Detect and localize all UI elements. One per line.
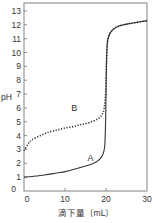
y-tick-label: 9 bbox=[16, 61, 21, 71]
curve-a bbox=[24, 21, 147, 178]
x-tick-label: 10 bbox=[60, 194, 70, 204]
y-tick-label: 10 bbox=[12, 48, 22, 58]
y-tick-label: 7 bbox=[16, 89, 21, 99]
y-tick-label: 2 bbox=[16, 158, 21, 168]
x-axis-label: 滴下量〔mL〕 bbox=[58, 208, 115, 218]
curve-b bbox=[24, 21, 147, 151]
y-axis-label: pH bbox=[1, 92, 12, 102]
plot-border bbox=[24, 3, 147, 191]
curves bbox=[24, 21, 147, 178]
y-tick-label: 12 bbox=[12, 20, 22, 30]
x-axis-ticks: 0102030 bbox=[25, 188, 152, 204]
y-tick-label: 8 bbox=[16, 75, 21, 85]
x-tick-label: 0 bbox=[25, 194, 30, 204]
plot-frame bbox=[24, 3, 147, 191]
y-tick-label: 5 bbox=[16, 117, 21, 127]
y-tick-label: 3 bbox=[16, 144, 21, 154]
x-tick-label: 30 bbox=[142, 194, 152, 204]
x-tick-label: 20 bbox=[101, 194, 111, 204]
y-tick-label: 0 bbox=[11, 184, 16, 194]
y-tick-label: 6 bbox=[16, 103, 21, 113]
curve-a-label: A bbox=[88, 153, 94, 163]
y-axis-ticks: 012345678910111213 bbox=[11, 6, 27, 194]
titration-chart: 012345678910111213 0102030 pH 滴下量〔mL〕 A … bbox=[0, 0, 152, 223]
y-tick-label: 11 bbox=[12, 34, 21, 44]
y-tick-label: 13 bbox=[12, 6, 22, 16]
y-tick-label: 4 bbox=[16, 131, 21, 141]
y-tick-label: 1 bbox=[16, 172, 21, 182]
curve-b-label: B bbox=[71, 103, 77, 113]
